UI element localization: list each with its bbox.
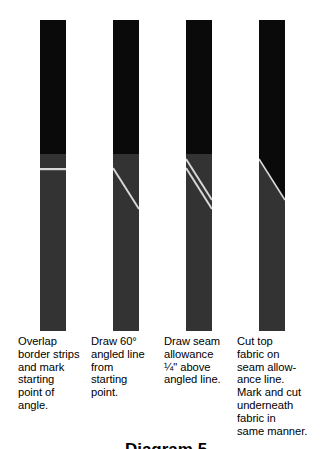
illustration-step-2: [113, 20, 139, 331]
panel-step-4: Cut top fabric on seam allow- ance line.…: [237, 0, 312, 449]
fabric-strip-diagram-1: [40, 20, 66, 331]
fabric-strip-diagram-3: [186, 20, 212, 331]
caption-step-1: Overlap border strips and mark starting …: [18, 335, 93, 412]
figure-label: Diagram 5: [0, 440, 332, 449]
caption-step-3: Draw seamallowance¼" aboveangled line.: [164, 335, 239, 386]
top-fabric-strip: [40, 20, 66, 154]
top-fabric-strip: [113, 20, 139, 154]
caption-step-3-line1: Draw seam: [164, 335, 220, 347]
caption-step-2: Draw 60° angled line from starting point…: [91, 335, 166, 399]
caption-step-3-line3-rest: " above: [173, 361, 210, 373]
caption-step-4: Cut top fabric on seam allow- ance line.…: [237, 335, 319, 437]
fabric-strip-diagram-4: [259, 20, 285, 331]
panel-step-3: Draw seamallowance¼" aboveangled line.: [164, 0, 239, 449]
fabric-strip-diagram-2: [113, 20, 139, 331]
panel-step-2: Draw 60° angled line from starting point…: [91, 0, 166, 449]
starting-point-mark: [40, 168, 66, 170]
illustration-step-4: [259, 20, 285, 331]
fraction-one-quarter: ¼: [164, 361, 173, 373]
caption-step-3-line2: allowance: [164, 348, 213, 360]
caption-step-3-line4: angled line.: [164, 373, 221, 385]
illustration-step-3: [186, 20, 212, 331]
panel-step-1: Overlap border strips and mark starting …: [18, 0, 93, 449]
instruction-figure: Overlap border strips and mark starting …: [0, 0, 332, 449]
top-fabric-strip: [186, 20, 212, 154]
illustration-step-1: [40, 20, 66, 331]
